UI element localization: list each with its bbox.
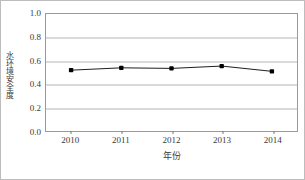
y-axis-tick-label: 0.0 bbox=[30, 128, 41, 137]
gridline bbox=[46, 37, 297, 38]
gridline bbox=[46, 85, 297, 86]
y-axis-tick-label: 0.2 bbox=[30, 104, 41, 113]
y-axis-tick-label: 0.4 bbox=[30, 80, 41, 89]
data-point-marker bbox=[270, 69, 274, 73]
x-axis-tick-label: 2010 bbox=[61, 134, 79, 146]
y-axis-title: 水环境安全度 bbox=[2, 27, 16, 123]
y-axis-tick-label: 0.6 bbox=[30, 56, 41, 65]
y-axis-tick-label: 0.8 bbox=[30, 32, 41, 41]
y-axis-tick-labels: 0.00.20.40.60.81.0 bbox=[17, 13, 43, 132]
gridline bbox=[46, 109, 297, 110]
x-axis-tick-label: 2012 bbox=[163, 134, 181, 146]
x-axis-tick-labels: 20102011201220132014 bbox=[45, 134, 298, 148]
plot-area bbox=[45, 13, 298, 132]
data-point-marker bbox=[119, 66, 123, 70]
chart-figure: 水环境安全度 0.00.20.40.60.81.0 20102011201220… bbox=[0, 0, 305, 180]
data-point-marker bbox=[69, 68, 73, 72]
x-axis-tick-label: 2013 bbox=[213, 134, 231, 146]
x-axis-tick-label: 2014 bbox=[264, 134, 282, 146]
data-point-marker bbox=[169, 66, 173, 70]
x-axis-title: 年份 bbox=[45, 151, 298, 162]
gridline bbox=[46, 61, 297, 62]
data-point-marker bbox=[220, 64, 224, 68]
data-series-line bbox=[46, 14, 297, 131]
y-axis-tick-label: 1.0 bbox=[30, 9, 41, 18]
x-axis-tick-label: 2011 bbox=[112, 134, 130, 146]
